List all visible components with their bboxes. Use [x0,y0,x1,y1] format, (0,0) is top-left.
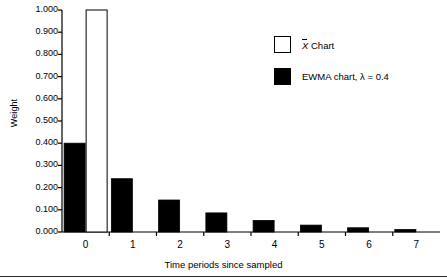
legend-label-suffix: Chart [308,40,334,51]
x-axis-tick-label: 0 [71,239,101,250]
x-axis-tick-label: 2 [165,239,195,250]
x-axis-tick-label: 6 [354,239,384,250]
x-axis-tick-label: 3 [212,239,242,250]
y-axis-tick-label: 0.100 [18,205,58,214]
y-axis-tick-label: 0.700 [18,72,58,81]
bar-ewma [253,220,274,232]
legend-item-ewma-chart: EWMA chart, λ = 0.4 [302,71,389,83]
y-axis-tick-label: 0.400 [18,138,58,147]
y-axis-tick-label: 0.000 [18,227,58,236]
y-axis-tick-label: 0.200 [18,183,58,192]
chart-figure: Weight 0.0000.1000.2000.3000.4000.5000.6… [0,0,447,280]
legend-swatch-xbar [274,36,291,53]
bar-ewma [206,213,227,232]
bar-ewma [159,200,180,232]
plot-canvas [0,0,447,280]
y-axis-tick-label: 0.800 [18,49,58,58]
x-axis-title: Time periods since sampled [0,259,447,270]
bar-ewma [64,143,85,232]
legend-item-xbar-chart: X Chart [302,39,334,52]
legend-swatch-ewma [274,68,291,85]
y-axis-tick-label: 0.300 [18,160,58,169]
x-axis-tick-label: 1 [118,239,148,250]
x-axis-tick-label: 5 [307,239,337,250]
x-axis-tick-label: 4 [260,239,290,250]
x-bar-glyph: X [302,39,308,52]
bar-xbar [86,10,107,232]
y-axis-tick-label: 0.500 [18,116,58,125]
y-axis-tick-label: 1.000 [18,5,58,14]
bar-ewma [111,179,132,232]
y-axis-tick-label: 0.900 [18,27,58,36]
x-axis-tick-label: 7 [401,239,431,250]
bar-ewma [395,230,416,232]
y-axis-tick-label: 0.600 [18,94,58,103]
bar-ewma [300,225,321,232]
bar-ewma [348,228,369,232]
page-rule [0,276,447,277]
